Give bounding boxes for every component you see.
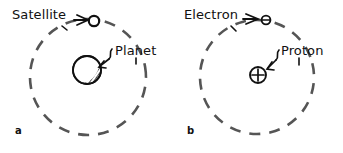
satellite-circle [89, 16, 99, 26]
label-electron: Electron [184, 8, 238, 21]
panel-b-drawing [171, 0, 343, 153]
satellite-label-tick [62, 26, 67, 30]
label-proton: Proton [281, 44, 324, 57]
label-satellite: Satellite [12, 8, 66, 21]
planet-leader-arrow [99, 49, 112, 68]
label-planet: Planet [115, 44, 156, 57]
satellite-leader-arrow [74, 15, 88, 25]
panel-letter-a: a [15, 126, 22, 136]
panel-b-electron-proton: Electron Proton b [171, 0, 343, 153]
figure-root: Satellite Planet a [0, 0, 343, 153]
proton-leader-arrow [267, 50, 279, 70]
panel-a-satellite-planet: Satellite Planet a [0, 0, 172, 153]
panel-a-drawing [0, 0, 172, 153]
electron-label-tick [231, 26, 236, 31]
panel-letter-b: b [187, 126, 194, 136]
